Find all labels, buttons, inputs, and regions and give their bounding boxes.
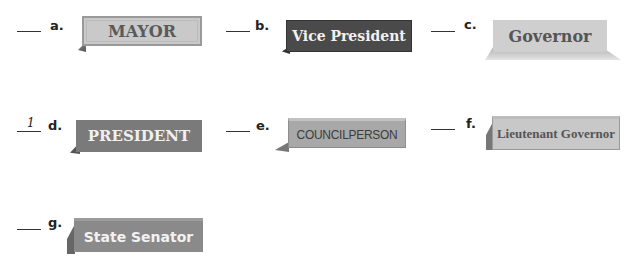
nameplate-governor: Governor <box>485 20 623 62</box>
nameplate-lieutenant-governor: Lieutenant Governor <box>486 116 626 152</box>
nameplate-label-governor: Governor <box>493 20 607 52</box>
nameplate-label-state-senator: State Senator <box>74 218 203 252</box>
nameplate-label-vice-president: Vice President <box>286 20 412 52</box>
nameplate-label-president: PRESIDENT <box>76 120 202 152</box>
answer-blank-f[interactable] <box>431 129 455 130</box>
answer-blank-e[interactable] <box>226 131 250 132</box>
item-letter-b: b. <box>255 18 269 33</box>
answer-blank-a[interactable] <box>17 31 41 32</box>
item-letter-e: e. <box>256 118 270 133</box>
item-letter-f: f. <box>466 116 476 131</box>
nameplate-mayor: MAYOR <box>78 16 206 52</box>
item-letter-a: a. <box>50 18 64 33</box>
item-letter-g: g. <box>48 215 62 230</box>
answer-blank-b[interactable] <box>226 31 250 32</box>
nameplate-vice-president: Vice President <box>282 20 414 54</box>
nameplate-state-senator: State Senator <box>67 218 207 254</box>
answer-value-d: 1 <box>27 116 35 130</box>
nameplate-president: PRESIDENT <box>70 120 208 154</box>
answer-blank-g[interactable] <box>17 229 41 230</box>
nameplate-base <box>275 142 289 152</box>
nameplate-councilperson: COUNCILPERSON <box>275 118 415 152</box>
answer-blank-d[interactable] <box>17 131 41 132</box>
nameplate-label-mayor: MAYOR <box>82 16 202 46</box>
item-letter-d: d. <box>48 118 62 133</box>
nameplate-label-councilperson: COUNCILPERSON <box>288 118 406 148</box>
answer-blank-c[interactable] <box>431 31 455 32</box>
nameplate-label-lieutenant-governor: Lieutenant Governor <box>492 116 620 150</box>
item-letter-c: c. <box>464 17 477 32</box>
